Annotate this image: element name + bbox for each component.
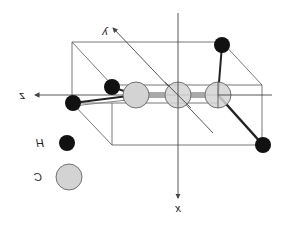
y-axis-label: y — [101, 27, 109, 39]
y-axis — [113, 28, 213, 133]
legend-carbon-swatch — [56, 164, 82, 190]
hydrogen-atom — [214, 37, 230, 53]
x-axis-label: x — [175, 202, 182, 214]
hydrogen-atom — [104, 79, 120, 95]
legend-hydrogen-label: H — [36, 137, 44, 149]
carbon-atom — [123, 82, 149, 108]
hydrogen-atom — [255, 137, 271, 153]
legend — [56, 135, 82, 190]
z-axis-label: z — [19, 89, 26, 101]
carbon-atoms — [123, 82, 231, 108]
legend-carbon-label: C — [34, 171, 42, 183]
hydrogen-atom — [65, 95, 81, 111]
legend-hydrogen-swatch — [59, 135, 75, 151]
allene-diagram: H C z y x — [0, 0, 288, 227]
